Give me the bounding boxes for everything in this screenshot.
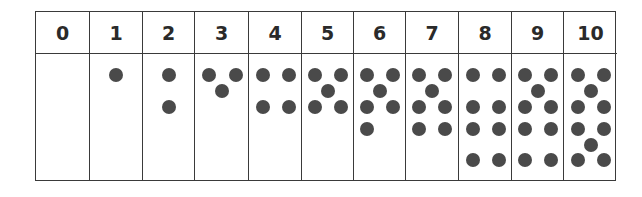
dot-icon bbox=[544, 153, 558, 167]
dot-cell bbox=[459, 54, 511, 180]
dot-icon bbox=[571, 100, 585, 114]
dot-icon bbox=[412, 100, 426, 114]
dot-icon bbox=[492, 100, 506, 114]
dot-icon bbox=[531, 84, 545, 98]
dot-icon bbox=[584, 138, 598, 152]
column-1: 1 bbox=[89, 12, 142, 180]
dot-icon bbox=[518, 100, 532, 114]
dot-icon bbox=[386, 100, 400, 114]
dot-icon bbox=[162, 68, 176, 82]
column-header: 4 bbox=[249, 12, 301, 54]
dot-icon bbox=[466, 100, 480, 114]
dot-icon bbox=[373, 84, 387, 98]
column-header: 9 bbox=[512, 12, 563, 54]
dot-cell bbox=[406, 54, 458, 180]
dot-icon bbox=[308, 100, 322, 114]
dot-cell bbox=[564, 54, 617, 180]
dot-icon bbox=[518, 68, 532, 82]
column-header: 6 bbox=[354, 12, 405, 54]
dot-icon bbox=[544, 122, 558, 136]
column-header: 2 bbox=[143, 12, 194, 54]
dot-icon bbox=[544, 100, 558, 114]
dot-icon bbox=[466, 68, 480, 82]
dot-icon bbox=[321, 84, 335, 98]
dot-icon bbox=[571, 122, 585, 136]
dot-icon bbox=[282, 100, 296, 114]
column-header: 1 bbox=[90, 12, 142, 54]
dot-cell bbox=[354, 54, 405, 180]
dot-icon bbox=[360, 122, 374, 136]
column-header: 3 bbox=[195, 12, 248, 54]
dot-cell bbox=[143, 54, 194, 180]
dot-cell bbox=[36, 54, 89, 180]
dot-icon bbox=[202, 68, 216, 82]
dot-icon bbox=[518, 153, 532, 167]
dot-icon bbox=[492, 153, 506, 167]
column-6: 6 bbox=[353, 12, 405, 180]
dot-icon bbox=[360, 68, 374, 82]
column-3: 3 bbox=[194, 12, 248, 180]
dot-icon bbox=[215, 84, 229, 98]
dot-icon bbox=[571, 68, 585, 82]
dot-icon bbox=[229, 68, 243, 82]
dot-icon bbox=[571, 153, 585, 167]
dot-icon bbox=[492, 122, 506, 136]
dot-icon bbox=[256, 100, 270, 114]
column-header: 7 bbox=[406, 12, 458, 54]
column-8: 8 bbox=[458, 12, 511, 180]
dot-icon bbox=[597, 100, 611, 114]
dot-icon bbox=[438, 100, 452, 114]
dot-cell bbox=[90, 54, 142, 180]
dot-icon bbox=[584, 84, 598, 98]
dot-icon bbox=[425, 84, 439, 98]
dot-icon bbox=[597, 153, 611, 167]
column-7: 7 bbox=[405, 12, 458, 180]
column-header: 8 bbox=[459, 12, 511, 54]
dot-icon bbox=[109, 68, 123, 82]
dot-icon bbox=[334, 100, 348, 114]
dot-icon bbox=[282, 68, 296, 82]
dot-icon bbox=[492, 68, 506, 82]
column-9: 9 bbox=[511, 12, 563, 180]
column-0: 0 bbox=[36, 12, 89, 180]
dot-cell bbox=[249, 54, 301, 180]
dot-cell bbox=[195, 54, 248, 180]
dot-pattern-table: 012345678910 bbox=[35, 11, 616, 181]
dot-icon bbox=[162, 100, 176, 114]
dot-icon bbox=[438, 68, 452, 82]
column-2: 2 bbox=[142, 12, 194, 180]
dot-icon bbox=[597, 122, 611, 136]
dot-icon bbox=[360, 100, 374, 114]
column-header: 0 bbox=[36, 12, 89, 54]
dot-icon bbox=[518, 122, 532, 136]
dot-icon bbox=[386, 68, 400, 82]
dot-icon bbox=[544, 68, 558, 82]
column-header: 5 bbox=[302, 12, 353, 54]
dot-icon bbox=[334, 68, 348, 82]
dot-icon bbox=[466, 153, 480, 167]
dot-icon bbox=[308, 68, 322, 82]
column-10: 10 bbox=[563, 12, 617, 180]
dot-icon bbox=[597, 68, 611, 82]
column-5: 5 bbox=[301, 12, 353, 180]
dot-icon bbox=[256, 68, 270, 82]
dot-icon bbox=[466, 122, 480, 136]
column-4: 4 bbox=[248, 12, 301, 180]
dot-cell bbox=[512, 54, 563, 180]
dot-icon bbox=[412, 68, 426, 82]
column-header: 10 bbox=[564, 12, 617, 54]
dot-icon bbox=[412, 122, 426, 136]
dot-icon bbox=[438, 122, 452, 136]
dot-cell bbox=[302, 54, 353, 180]
